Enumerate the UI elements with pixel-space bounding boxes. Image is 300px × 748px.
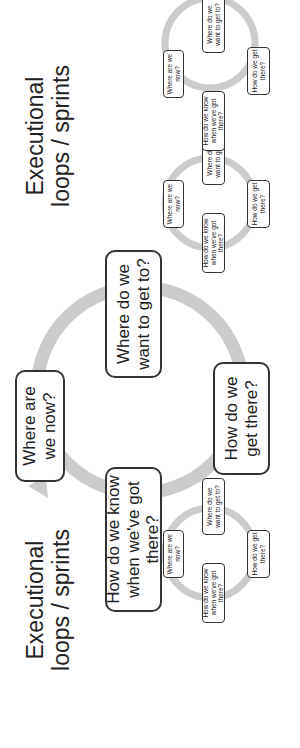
- loop2-how-know-box: How do we know when we've got there?: [202, 213, 225, 273]
- main-where-now-box: Where are we now?: [15, 370, 65, 482]
- loop2-how-get-box: How do we get there?: [247, 180, 270, 228]
- diagram-stage: Executional loops / sprints Executional …: [0, 0, 300, 748]
- title-right: Executional loops / sprints: [22, 46, 75, 226]
- loop3-how-know-box: How do we know when we've got there?: [202, 91, 225, 151]
- title-left: Executional loops / sprints: [22, 510, 75, 690]
- loop3-want-to-get-box: Where do we want to get to?: [202, 0, 225, 53]
- loop1-how-get-box: How do we get there?: [247, 530, 270, 578]
- loop1-how-know-box: How do we know when we've got there?: [202, 563, 225, 623]
- loop2-where-now-box: Where are we now?: [163, 180, 184, 228]
- loop3-how-get-box: How do we get there?: [247, 47, 270, 95]
- main-how-know-box: How do we know when we've got there?: [105, 467, 162, 612]
- loop1-want-to-get-box: Where do we want to get to?: [202, 478, 225, 535]
- main-want-to-get-box: Where do we want to get to?: [105, 250, 162, 378]
- main-how-get-box: How do we get there?: [213, 362, 270, 475]
- loop1-where-now-box: Where are we now?: [163, 530, 184, 578]
- loop3-where-now-box: Where are we now?: [163, 50, 184, 98]
